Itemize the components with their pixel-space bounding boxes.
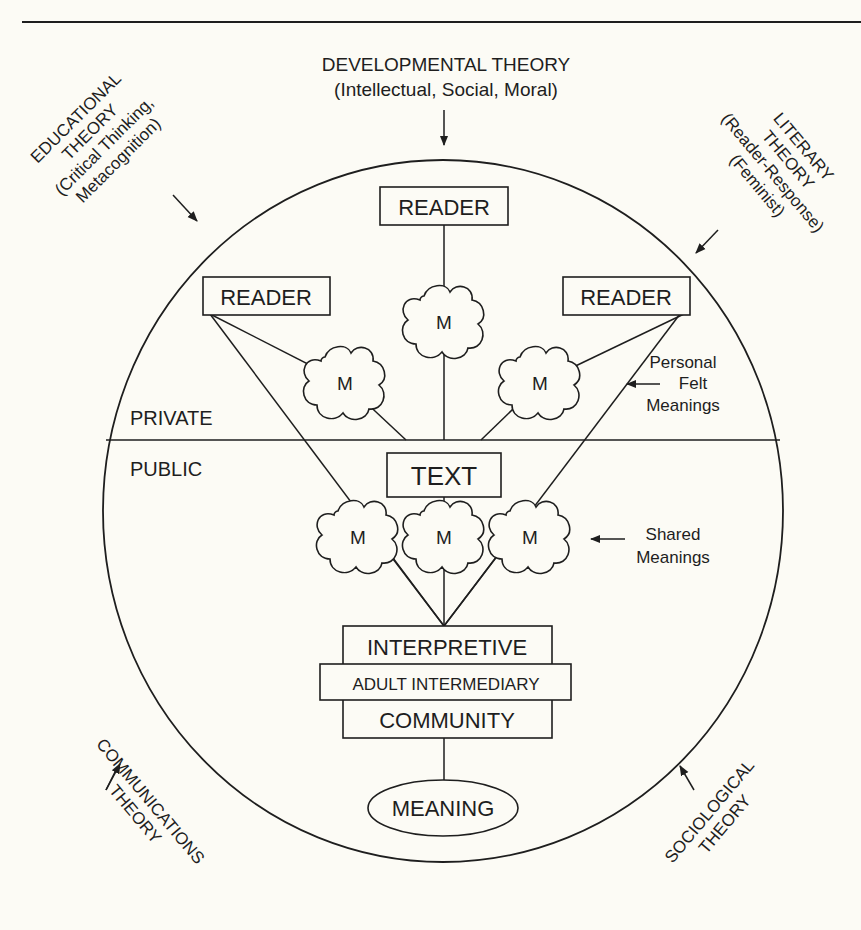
svg-text:M: M bbox=[436, 312, 452, 333]
private-label: PRIVATE bbox=[130, 407, 213, 429]
svg-text:Felt: Felt bbox=[679, 374, 708, 393]
shared-meaning-cloud-right: M bbox=[488, 501, 569, 574]
developmental-theory-subtitle: (Intellectual, Social, Moral) bbox=[334, 79, 558, 100]
personal-meaning-cloud-right: M bbox=[498, 347, 579, 420]
svg-text:TEXT: TEXT bbox=[411, 461, 478, 491]
reader-response-diagram: DEVELOPMENTAL THEORY (Intellectual, Soci… bbox=[0, 0, 861, 930]
svg-text:M: M bbox=[337, 373, 353, 394]
communications-theory-label: COMMUNICATIONS THEORY bbox=[77, 735, 208, 881]
educational-arrow-icon bbox=[173, 195, 197, 221]
svg-text:M: M bbox=[532, 373, 548, 394]
svg-text:Personal: Personal bbox=[649, 353, 716, 372]
svg-text:READER: READER bbox=[580, 285, 672, 310]
personal-meaning-cloud-top: M bbox=[402, 286, 483, 359]
meaning-ellipse: MEANING bbox=[368, 780, 518, 836]
svg-text:READER: READER bbox=[220, 285, 312, 310]
svg-text:Meanings: Meanings bbox=[636, 548, 710, 567]
reader-box-right: READER bbox=[563, 277, 690, 315]
interpretive-label: INTERPRETIVE bbox=[367, 635, 527, 660]
svg-text:COMMUNICATIONS: COMMUNICATIONS bbox=[92, 735, 208, 868]
personal-meaning-cloud-left: M bbox=[303, 347, 384, 420]
sociological-theory-label: SOCIOLOGICAL THEORY bbox=[661, 756, 773, 879]
shared-meaning-cloud-left: M bbox=[316, 501, 397, 574]
svg-text:MEANING: MEANING bbox=[392, 796, 495, 821]
svg-text:M: M bbox=[522, 527, 538, 548]
literary-theory-label: LITERARY THEORY (Reader-Response) (Femin… bbox=[702, 84, 858, 249]
public-label: PUBLIC bbox=[130, 458, 202, 480]
interpretive-community-stack: INTERPRETIVE ADULT INTERMEDIARY COMMUNIT… bbox=[320, 626, 571, 738]
personal-felt-meanings-annotation: Personal Felt Meanings bbox=[627, 353, 720, 415]
shared-meaning-cloud-middle: M bbox=[402, 501, 483, 574]
sociological-arrow bbox=[680, 766, 694, 790]
shared-meanings-annotation: Shared Meanings bbox=[591, 525, 710, 567]
community-label: COMMUNITY bbox=[379, 708, 515, 733]
reader-box-left: READER bbox=[203, 277, 330, 315]
text-box: TEXT bbox=[387, 453, 501, 497]
adult-intermediary-label: ADULT INTERMEDIARY bbox=[352, 675, 539, 694]
reader-box-top: READER bbox=[380, 187, 508, 225]
educational-theory-label: EDUCATIONAL THEORY (Critical Thinking, M… bbox=[23, 65, 172, 214]
developmental-theory-title: DEVELOPMENTAL THEORY bbox=[322, 54, 571, 75]
svg-text:READER: READER bbox=[398, 195, 490, 220]
svg-text:Meanings: Meanings bbox=[646, 396, 720, 415]
svg-text:M: M bbox=[436, 527, 452, 548]
literary-arrow-icon bbox=[696, 230, 718, 253]
svg-text:M: M bbox=[350, 527, 366, 548]
svg-text:Shared: Shared bbox=[646, 525, 701, 544]
